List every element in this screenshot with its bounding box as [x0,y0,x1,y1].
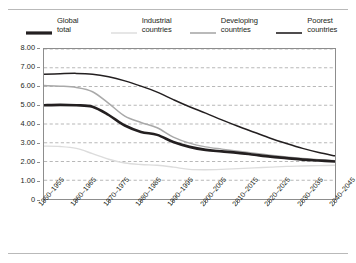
legend-item-global-total: Global total [26,16,111,39]
legend-swatch-icon [276,21,302,39]
y-axis-tick-label: 5.00 [21,101,35,109]
y-axis-tick-label: 6.00 [21,82,35,90]
chart-legend: Global total Industrial countries Develo… [26,16,350,39]
legend-label: Global total [57,16,78,34]
y-axis-tick [37,48,40,49]
x-axis-labels: 1950–19551960–19651970–19751980–19851990… [0,203,356,253]
legend-swatch-icon [111,21,137,39]
y-axis-tick [37,143,40,144]
legend-label: Developing countries [221,16,258,34]
top-divider-rule [8,9,348,10]
legend-label: Industrial countries [142,16,172,34]
chart-figure: Global total Industrial countries Develo… [0,0,356,263]
legend-swatch-icon [26,21,52,39]
y-axis-tick-label: 1.00 [21,177,35,185]
legend-item-industrial-countries: Industrial countries [111,16,190,39]
series-line [44,105,335,162]
y-axis-tick [37,105,40,106]
legend-swatch-icon [190,21,216,39]
y-axis-tick [37,162,40,163]
y-axis-tick-label: 4.00 [21,120,35,128]
y-axis-tick-label: 3.00 [21,139,35,147]
y-axis-tick-label: 7.00 [21,63,35,71]
y-axis-tick [37,181,40,182]
y-axis-tick [37,124,40,125]
series-line [44,86,335,161]
y-axis-tick [37,67,40,68]
y-axis-tick-label: 2.00 [21,158,35,166]
y-axis-tick [37,86,40,87]
legend-item-poorest-countries: Poorest countries [276,16,350,39]
legend-label: Poorest countries [307,16,337,34]
y-axis-tick-label: 8.00 [21,44,35,52]
y-axis: 8.007.006.005.004.003.002.001.000 [0,40,40,210]
bottom-divider-rule [8,253,348,254]
legend-item-developing-countries: Developing countries [190,16,277,39]
